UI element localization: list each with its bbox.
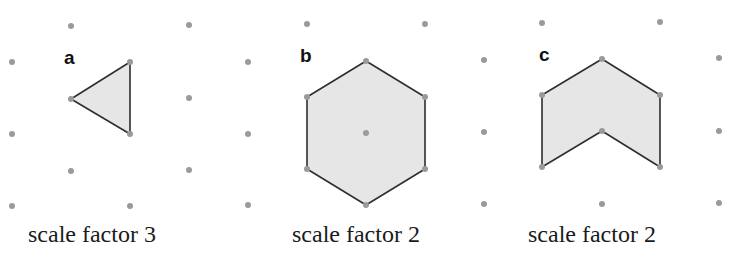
grid-dot — [245, 59, 251, 65]
grid-dot — [599, 201, 605, 207]
panel-b-label: b — [300, 45, 312, 67]
grid-dot — [716, 55, 722, 61]
grid-dot — [9, 59, 15, 65]
grid-dot — [481, 201, 487, 207]
grid-dot — [363, 58, 369, 64]
grid-dot — [599, 128, 605, 134]
grid-dot — [127, 59, 133, 65]
grid-dot — [481, 57, 487, 63]
grid-dot — [539, 164, 545, 170]
panel-c-caption: scale factor 2 — [528, 221, 656, 248]
grid-dot — [657, 164, 663, 170]
grid-dot — [186, 95, 192, 101]
grid-dot — [481, 129, 487, 135]
grid-dot — [363, 202, 369, 208]
diagram-stage: a b c scale factor 3 scale factor 2 scal… — [0, 0, 730, 260]
grid-dot — [68, 96, 74, 102]
grid-dot — [657, 92, 663, 98]
panel-a-label: a — [64, 47, 75, 69]
grid-dot — [599, 56, 605, 62]
panel-b-caption: scale factor 2 — [292, 221, 420, 248]
grid-dot — [304, 94, 310, 100]
grid-dot — [422, 94, 428, 100]
grid-dot — [127, 131, 133, 137]
grid-dot — [363, 130, 369, 136]
grid-dot — [716, 128, 722, 134]
grid-dot — [657, 19, 663, 25]
grid-dot — [304, 21, 310, 27]
grid-dot — [716, 200, 722, 206]
grid-dot — [245, 131, 251, 137]
shape-chevron — [542, 59, 660, 167]
grid-dot — [539, 20, 545, 26]
panel-c-label: c — [539, 44, 550, 66]
grid-dot — [422, 166, 428, 172]
grid-dot — [539, 92, 545, 98]
grid-dot — [304, 166, 310, 172]
grid-dot — [68, 23, 74, 29]
grid-dot — [9, 131, 15, 137]
grid-dot — [186, 22, 192, 28]
grid-dot — [186, 167, 192, 173]
panel-a-caption: scale factor 3 — [28, 221, 156, 248]
shape-triangle — [71, 62, 130, 134]
grid-dot — [422, 21, 428, 27]
grid-dot — [68, 168, 74, 174]
grid-dot — [9, 203, 15, 209]
grid-dot — [127, 203, 133, 209]
grid-dot — [245, 202, 251, 208]
